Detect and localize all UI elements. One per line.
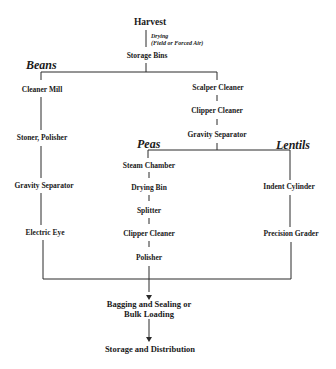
common-step-2: Clipper Cleaner [191,107,243,116]
peas-label: Peas [137,137,160,152]
peas-step-3: Splitter [137,207,161,216]
lentils-label: Lentils [276,138,310,153]
lentils-step-1: Indent Cylinder [263,183,314,192]
beans-step-4: Electric Eye [26,229,65,238]
bagging-line2: Bulk Loading [107,310,191,320]
lentils-step-2: Precision Grader [263,230,318,239]
peas-step-2: Drying Bin [131,184,167,193]
beans-step-1: Cleaner Mill [22,86,62,95]
peas-step-4: Clipper Cleaner [123,230,175,239]
drying-note-line1: Drying [151,33,203,40]
storage-distribution-node: Storage and Distribution [105,345,195,355]
storage-bins-node: Storage Bins [127,52,168,61]
peas-step-5: Polisher [136,254,162,263]
drying-note-line2: (Field or Forced Air) [151,40,203,47]
common-step-3: Gravity Separator [188,131,247,140]
harvest-node: Harvest [134,17,166,27]
drying-note: Drying (Field or Forced Air) [151,33,203,47]
beans-step-3: Gravity Separator [15,182,74,191]
beans-step-2: Stoner, Polisher [17,134,68,143]
bagging-node: Bagging and Sealing or Bulk Loading [107,300,191,320]
common-step-1: Scalper Cleaner [192,84,243,93]
beans-label: Beans [26,58,57,73]
peas-step-1: Steam Chamber [123,162,175,171]
